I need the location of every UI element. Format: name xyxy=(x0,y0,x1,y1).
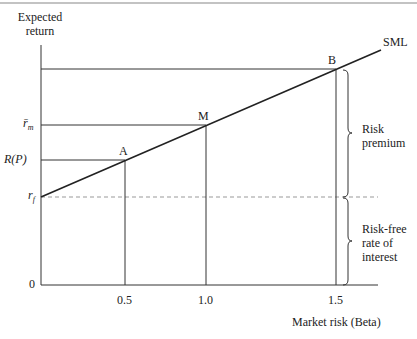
point-m-label: M xyxy=(198,110,209,123)
risk-premium-brace xyxy=(343,70,352,197)
y-axis-label: Expected return xyxy=(10,10,70,38)
y-axis-label-line2: return xyxy=(10,24,70,38)
risk-premium-line1: Risk xyxy=(362,122,405,136)
rf-tick-label: rf xyxy=(28,189,35,206)
rp-tick-label: R(P) xyxy=(4,153,27,166)
riskfree-line2: rate of xyxy=(362,236,407,250)
rm-tick-label: r̄m xyxy=(23,117,33,134)
riskfree-line1: Risk-free xyxy=(362,222,407,236)
riskfree-brace xyxy=(343,198,352,285)
sml-label: SML xyxy=(383,36,408,49)
x-axis-label: Market risk (Beta) xyxy=(292,316,381,329)
y-axis-label-line1: Expected xyxy=(10,10,70,24)
risk-premium-line2: premium xyxy=(362,136,405,150)
x-tick-0.5: 0.5 xyxy=(117,294,132,307)
riskfree-line3: interest xyxy=(362,250,407,264)
x-tick-1.0: 1.0 xyxy=(198,294,213,307)
sml-diagram xyxy=(0,0,417,339)
sml-line xyxy=(41,50,381,197)
rf-subscript: f xyxy=(33,195,35,204)
riskfree-label: Risk-free rate of interest xyxy=(362,222,407,264)
risk-premium-label: Risk premium xyxy=(362,122,405,150)
rm-subscript: m xyxy=(28,123,34,132)
zero-tick-label: 0 xyxy=(29,278,35,291)
point-a-label: A xyxy=(119,145,128,158)
x-tick-1.5: 1.5 xyxy=(328,294,343,307)
point-b-label: B xyxy=(328,54,336,67)
